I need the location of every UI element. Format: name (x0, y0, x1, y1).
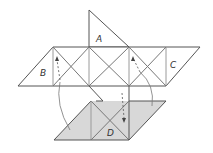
folding-diagram: A B C D (0, 0, 213, 153)
label-d: D (107, 128, 114, 138)
label-b: B (40, 68, 46, 78)
panel-a (89, 10, 129, 47)
label-a: A (95, 34, 102, 44)
label-c: C (170, 60, 177, 70)
left-fold-curve (59, 82, 70, 130)
